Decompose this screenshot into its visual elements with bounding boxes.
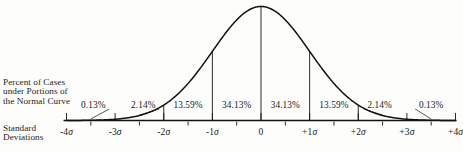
axis-tick-label: 0 (259, 127, 264, 137)
percent-label: 2.14% (367, 100, 392, 110)
axis-tick-label: -4σ (60, 127, 73, 137)
axis-tick-label: +4σ (448, 127, 463, 137)
percent-label: 34.13% (222, 100, 251, 110)
percent-label: 13.59% (173, 100, 202, 110)
axis-ticks (67, 113, 456, 126)
axis-tick-label: +2σ (351, 127, 366, 137)
axis-tick-label: -2σ (157, 127, 170, 137)
axis-tick-label: +3σ (399, 127, 414, 137)
percent-label: 0.13% (419, 100, 444, 110)
axis-tick-label: -1σ (206, 127, 219, 137)
percent-label: 13.59% (319, 100, 348, 110)
percent-label: 34.13% (271, 100, 300, 110)
axis-tick-label: -3σ (109, 127, 122, 137)
percent-label: 0.13% (81, 100, 106, 110)
percent-label: 2.14% (131, 100, 156, 110)
axis-tick-label: +1σ (302, 127, 317, 137)
